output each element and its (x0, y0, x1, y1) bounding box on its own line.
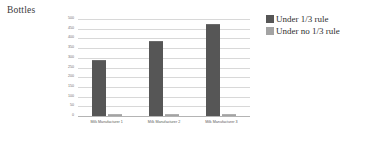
chart-legend: Under 1/3 ruleUnder no 1/3 rule (266, 14, 366, 38)
x-axis: Milk Manufacturer 1Milk Manufacturer 2Mi… (78, 120, 250, 132)
bars-layer (78, 19, 250, 116)
y-axis-tick-label: 300 (68, 56, 74, 60)
bar (92, 60, 106, 116)
x-axis-tick-label: Milk Manufacturer 3 (205, 120, 237, 124)
y-axis-tick-label: 400 (68, 37, 74, 41)
gridline (78, 116, 250, 117)
bar (149, 41, 163, 116)
y-axis-tick-label: 50 (70, 105, 74, 109)
y-axis-tick-label: 500 (68, 17, 74, 21)
bar-group (206, 19, 236, 116)
y-axis: 050100150200250300350400450500 (0, 19, 76, 116)
bar (206, 24, 220, 116)
legend-item[interactable]: Under no 1/3 rule (266, 26, 366, 36)
x-axis-tick-label: Milk Manufacturer 2 (148, 120, 180, 124)
x-axis-tick-label: Milk Manufacturer 1 (90, 120, 122, 124)
bar (165, 114, 179, 116)
y-axis-tick-label: 100 (68, 95, 74, 99)
y-axis-tick-label: 450 (68, 27, 74, 31)
bar-group (92, 19, 122, 116)
legend-swatch-icon (266, 27, 274, 35)
bar-group (149, 19, 179, 116)
y-axis-tick-label: 0 (72, 114, 74, 118)
chart-title: Bottles (7, 5, 35, 15)
y-axis-tick-label: 150 (68, 85, 74, 89)
legend-label: Under 1/3 rule (276, 14, 328, 24)
plot-area (78, 19, 250, 116)
y-axis-tick-label: 200 (68, 75, 74, 79)
y-axis-tick-label: 250 (68, 66, 74, 70)
bar-chart-figure: Bottles 050100150200250300350400450500 M… (0, 0, 368, 144)
y-axis-tick-label: 350 (68, 46, 74, 50)
legend-item[interactable]: Under 1/3 rule (266, 14, 366, 24)
bar (222, 114, 236, 116)
legend-swatch-icon (266, 15, 274, 23)
legend-label: Under no 1/3 rule (276, 26, 340, 36)
bar (108, 114, 122, 116)
